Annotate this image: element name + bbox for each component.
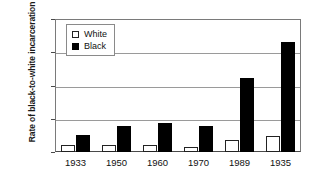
bar-group <box>137 19 178 152</box>
bar-black-1935 <box>281 42 295 152</box>
legend-label: White <box>84 29 107 39</box>
x-tick-label: 1989 <box>229 157 250 168</box>
x-tick-label: 1935 <box>270 157 291 168</box>
legend-entry: Black <box>72 40 107 52</box>
bar-white-1950 <box>102 145 116 152</box>
bar-group <box>178 19 219 152</box>
bar-group <box>260 19 301 152</box>
bar-white-1933 <box>61 145 75 152</box>
bar-black-1970 <box>199 126 213 152</box>
bar-black-1933 <box>76 135 90 152</box>
x-tick-label: 1950 <box>106 157 127 168</box>
bar-group <box>219 19 260 152</box>
bar-black-1960 <box>158 123 172 152</box>
legend-entry: White <box>72 28 107 40</box>
legend-label: Black <box>84 41 106 51</box>
bar-black-1989 <box>240 78 254 152</box>
chart-legend: WhiteBlack <box>66 24 115 56</box>
bar-chart: Rate of black-to-white incarceration 00.… <box>0 0 320 193</box>
bar-white-1960 <box>143 145 157 152</box>
white-square-icon <box>72 31 79 38</box>
x-tick-label: 1970 <box>188 157 209 168</box>
black-square-icon <box>72 43 79 50</box>
x-tick-label: 1933 <box>65 157 86 168</box>
bar-white-1970 <box>184 147 198 152</box>
bar-black-1950 <box>117 126 131 152</box>
y-tick-mark <box>51 152 55 153</box>
y-axis-title: Rate of black-to-white incarceration <box>27 0 37 152</box>
bar-white-1935 <box>266 136 280 152</box>
x-tick-label: 1960 <box>147 157 168 168</box>
bar-white-1989 <box>225 140 239 152</box>
